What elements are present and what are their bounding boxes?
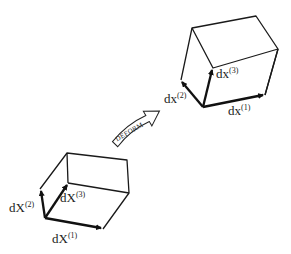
diagram-canvas: DEFORM: [0, 0, 291, 254]
vector-dX2: [41, 191, 45, 218]
vector-dx3: [203, 70, 212, 107]
label-dX1: dX(1): [52, 232, 77, 245]
label-dx2: dx(2): [164, 92, 186, 105]
vector-dX1: [45, 218, 101, 228]
label-dx3: dx(3): [216, 67, 238, 80]
deform-arrow: DEFORM: [107, 104, 164, 148]
deformation-diagram: DEFORM dX(2) dX(3) dX(1) dx(2) dx(3) dx(…: [0, 0, 291, 254]
deformed-box: [181, 16, 278, 107]
label-dX2: dX(2): [9, 201, 34, 214]
label-dx1: dx(1): [228, 104, 250, 117]
deform-label: DEFORM: [114, 120, 145, 143]
label-dX3: dX(3): [60, 191, 85, 204]
